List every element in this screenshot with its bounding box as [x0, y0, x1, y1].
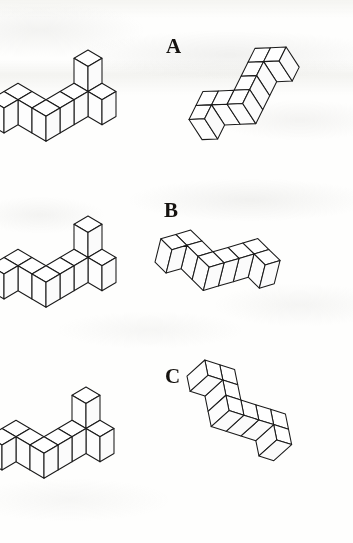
cube — [30, 437, 58, 478]
reference-figure-c — [0, 384, 117, 481]
row-label-b[interactable]: B — [164, 200, 178, 221]
cube — [86, 420, 114, 461]
candidate-figure-c — [184, 357, 295, 464]
worksheet-page: ABC — [0, 0, 353, 543]
row-label-a[interactable]: A — [166, 36, 181, 57]
rotation-item-row-c — [0, 0, 353, 543]
row-label-c[interactable]: C — [165, 366, 180, 387]
